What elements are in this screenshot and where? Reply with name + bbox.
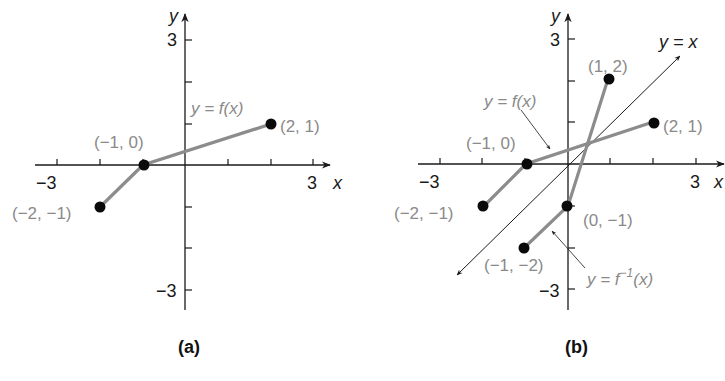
point-neg1-0	[139, 160, 150, 171]
x-tick-3: 3	[690, 172, 700, 192]
point-neg1-neg2	[519, 243, 530, 254]
f-pointer-arrow	[521, 110, 550, 149]
point-neg2-neg1	[478, 201, 489, 212]
label-2-1: (2, 1)	[280, 117, 320, 136]
label-neg1-0: (−1, 0)	[466, 134, 516, 153]
panel-a: y x −3 3 3 −3 (−2, −1) (−1, 0) (2, 1) y …	[12, 6, 343, 357]
label-2-1: (2, 1)	[663, 117, 703, 136]
y-axis-label: y	[549, 6, 561, 26]
point-neg1-0	[522, 159, 533, 170]
caption-b: (b)	[565, 337, 588, 357]
x-tick-3: 3	[307, 173, 317, 193]
label-f-of-x: y = f(x)	[190, 99, 243, 118]
label-neg1-0: (−1, 0)	[94, 133, 144, 152]
y-axis-label: y	[167, 6, 179, 26]
y-tick-neg3: −3	[539, 281, 560, 301]
label-neg2-neg1: (−2, −1)	[12, 204, 72, 223]
x-axis-label: x	[713, 172, 724, 192]
x-tick-neg3: −3	[36, 173, 57, 193]
label-1-2: (1, 2)	[588, 57, 628, 76]
y-tick-3: 3	[550, 30, 560, 50]
y-tick-3: 3	[167, 30, 177, 50]
label-0-neg1: (0, −1)	[583, 211, 633, 230]
label-f-inverse: y = f−1(x)	[586, 266, 653, 289]
caption-a: (a)	[178, 337, 200, 357]
point-2-1	[266, 119, 277, 130]
y-tick-neg3: −3	[156, 281, 177, 301]
panel-b: y x −3 3 3 −3 y = x (−2, −1) (−1, 0) (2,…	[394, 6, 724, 357]
label-neg1-neg2: (−1, −2)	[484, 256, 544, 275]
figure: y x −3 3 3 −3 (−2, −1) (−1, 0) (2, 1) y …	[0, 0, 725, 381]
point-0-neg1	[562, 201, 573, 212]
label-y-equals-x: y = x	[657, 32, 699, 52]
label-f-of-x: y = f(x)	[483, 92, 536, 111]
label-neg2-neg1: (−2, −1)	[394, 204, 454, 223]
point-neg2-neg1	[95, 202, 106, 213]
x-axis-label: x	[332, 173, 343, 193]
point-2-1	[649, 118, 660, 129]
x-tick-neg3: −3	[419, 172, 440, 192]
